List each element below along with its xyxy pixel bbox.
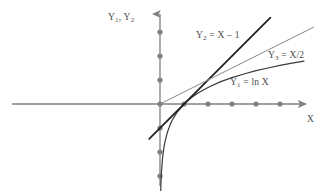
x-axis-label: X [307,114,314,124]
series-label-y1: Y1 = ln X [230,77,269,87]
y-axis-label: Y1, Y2 [108,12,134,22]
series-label-y2-text: Y2 = X – 1 [196,30,240,40]
x-axis-tick-dot [277,101,282,106]
series-label-y3: Y3 = X/2 [268,50,304,60]
axes-group [12,14,306,186]
y-axis-tick-dot [157,53,162,58]
x-axis-tick-dot [205,101,210,106]
series-label-y2: Y2 = X – 1 [196,30,240,40]
series-label-y3-text: Y3 = X/2 [268,50,304,60]
plot-canvas [0,0,330,191]
y-axis-tick-dot [157,149,162,154]
chart-figure: Y1, Y2 X Y2 = X – 1 Y3 = X/2 Y1 = ln X [0,0,330,191]
y-axis-tick-dot [157,77,162,82]
x-axis-tick-dot [229,101,234,106]
y-axis-label-text: Y1, Y2 [108,12,134,22]
series-label-y1-text: Y1 = ln X [230,77,269,87]
y-axis-tick-dot [157,29,162,34]
x-axis-tick-dot [253,101,258,106]
